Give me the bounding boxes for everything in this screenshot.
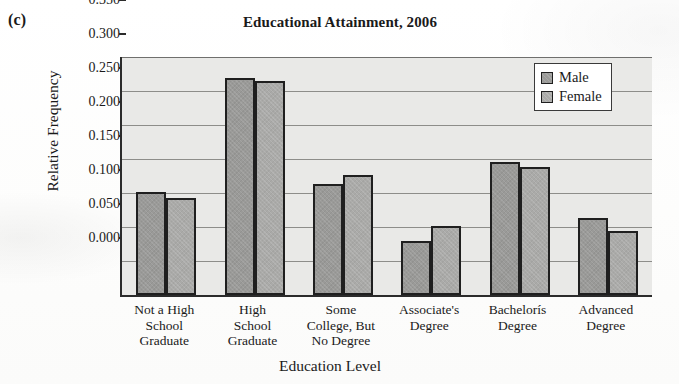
y-tick-mark xyxy=(119,33,126,35)
y-tick-label: 0.000 xyxy=(74,231,120,245)
gridline xyxy=(122,193,652,194)
x-category-label: Advanced Degree xyxy=(552,302,660,333)
bar-group xyxy=(401,57,461,295)
legend: Male Female xyxy=(534,63,612,111)
y-tick-mark xyxy=(119,0,126,1)
legend-swatch-female-icon xyxy=(541,91,553,103)
y-tick-label: 0.250 xyxy=(74,61,120,75)
chart-title: Educational Attainment, 2006 xyxy=(120,14,560,31)
bar-female[interactable] xyxy=(166,198,196,295)
bar-group xyxy=(313,57,373,295)
legend-label-female: Female xyxy=(559,89,602,104)
bar-male[interactable] xyxy=(490,162,520,295)
bar-group xyxy=(136,57,196,295)
gridline xyxy=(122,261,652,262)
bar-female[interactable] xyxy=(608,231,638,295)
bar-female[interactable] xyxy=(255,81,285,295)
bar-female[interactable] xyxy=(343,175,373,295)
bar-male[interactable] xyxy=(313,184,343,295)
figure-panel-c: (c) Educational Attainment, 2006 Relativ… xyxy=(0,0,679,384)
legend-swatch-male-icon xyxy=(541,72,553,84)
legend-item-female[interactable]: Female xyxy=(541,87,602,106)
legend-label-male: Male xyxy=(559,70,589,85)
bar-male[interactable] xyxy=(225,78,255,295)
y-tick-label: 0.300 xyxy=(74,27,120,41)
gridline xyxy=(122,125,652,126)
x-axis-title: Education Level xyxy=(205,357,455,375)
y-tick-label: 0.150 xyxy=(74,129,120,143)
gridline xyxy=(122,57,652,58)
y-tick-label: 0.200 xyxy=(74,95,120,109)
bar-male[interactable] xyxy=(401,241,431,295)
bar-female[interactable] xyxy=(431,226,461,295)
legend-item-male[interactable]: Male xyxy=(541,68,602,87)
gridline xyxy=(122,159,652,160)
bar-male[interactable] xyxy=(578,218,608,295)
y-axis-ticks: 0.3500.3000.2500.2000.1500.1000.0500.000 xyxy=(0,0,120,238)
gridline xyxy=(122,227,652,228)
y-tick-label: 0.100 xyxy=(74,163,120,177)
bar-male[interactable] xyxy=(136,192,166,295)
bar-female[interactable] xyxy=(520,167,550,295)
y-tick-label: 0.050 xyxy=(74,197,120,211)
y-tick-label: 0.350 xyxy=(74,0,120,7)
bar-group xyxy=(225,57,285,295)
